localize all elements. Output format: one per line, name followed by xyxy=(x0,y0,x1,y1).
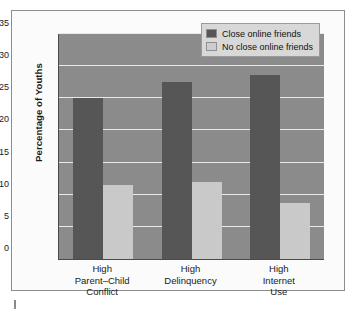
x-category-label-2: HighDelinquency xyxy=(146,263,234,286)
bar-noclose-group-3 xyxy=(280,203,310,259)
x-category-line: High xyxy=(235,263,323,275)
y-tick-label-20: 20 xyxy=(0,114,9,124)
y-tick-label-15: 15 xyxy=(0,147,9,157)
x-category-line: Use xyxy=(235,286,323,298)
x-category-line: High xyxy=(146,263,234,275)
legend-item-close-online-friends: Close online friends xyxy=(206,27,313,40)
legend-swatch-icon-no-close-online-friends xyxy=(206,42,217,51)
bar-noclose-group-2 xyxy=(192,182,222,259)
y-tick-label-10: 10 xyxy=(0,179,9,189)
y-axis-title: Percentage of Youths xyxy=(33,48,44,178)
x-category-line: Internet xyxy=(235,275,323,287)
x-category-line: Conflict xyxy=(58,286,146,298)
y-tick-label-30: 30 xyxy=(0,50,9,60)
x-category-line: Delinquency xyxy=(146,275,234,287)
legend-item-no-close-online-friends: No close online friends xyxy=(206,40,313,53)
plot-area: 05101520253035 xyxy=(58,34,324,260)
bar-close-group-3 xyxy=(250,75,280,259)
bar-close-group-2 xyxy=(162,82,192,259)
bar-close-group-1 xyxy=(73,98,103,259)
x-category-label-3: HighInternetUse xyxy=(235,263,323,298)
y-tick-label-5: 5 xyxy=(0,211,9,221)
gridline-30 xyxy=(59,65,324,66)
legend-swatch-icon-close-online-friends xyxy=(206,29,217,38)
y-tick-label-25: 25 xyxy=(0,82,9,92)
x-category-line: Parent–Child xyxy=(58,275,146,287)
y-tick-label-0: 0 xyxy=(0,243,9,253)
legend-label-no-close-online-friends: No close online friends xyxy=(222,42,313,52)
legend: Close online friends No close online fri… xyxy=(201,23,320,57)
bar-noclose-group-1 xyxy=(103,185,133,259)
x-category-line: High xyxy=(58,263,146,275)
y-tick-label-35: 35 xyxy=(0,18,9,28)
figure-panel: Percentage of Youths 05101520253035 Clos… xyxy=(11,10,345,291)
page-footer-mark xyxy=(14,300,16,309)
x-category-label-1: HighParent–ChildConflict xyxy=(58,263,146,298)
legend-label-close-online-friends: Close online friends xyxy=(222,29,301,39)
